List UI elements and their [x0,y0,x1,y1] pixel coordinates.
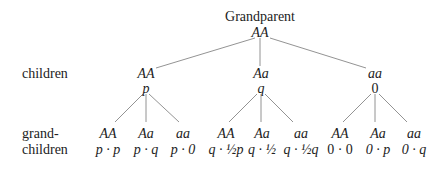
row-label-children: children [22,66,68,82]
grandchild-prob: 0 · 0 [327,142,353,158]
grandchild-prob: q · ½ [248,142,276,158]
child-prob: 0 [372,81,379,97]
grandchild-genotype: AA [331,126,348,142]
grandchild-genotype: aa [176,126,190,142]
child-genotype: AA [137,66,154,82]
grandchild-genotype: Aa [254,126,270,142]
grandchild-genotype: aa [294,126,308,142]
grandchild-prob: 0 · p [366,142,391,158]
grandchild-genotype: AA [99,126,116,142]
grandchild-prob: p · 0 [171,142,196,158]
grandchild-prob: q · ½p [209,142,244,158]
child-genotype: aa [368,66,382,82]
row-label-grandchildren: children [22,142,68,158]
grandchild-genotype: AA [217,126,234,142]
grandchild-genotype: Aa [138,126,154,142]
grandchild-prob: p · p [96,142,121,158]
child-prob: p [143,81,150,97]
grandchild-genotype: Aa [370,126,386,142]
grandchild-prob: q · ½q [284,142,319,158]
row-label-grand: grand- [22,126,59,142]
grandparent-genotype: AA [251,25,268,41]
grandparent-label: Grandparent [225,9,295,25]
child-prob: q [258,81,265,97]
child-genotype: Aa [253,66,269,82]
grandchild-prob: 0 · q [402,142,427,158]
grandchild-prob: p · q [134,142,159,158]
grandchild-genotype: aa [407,126,421,142]
